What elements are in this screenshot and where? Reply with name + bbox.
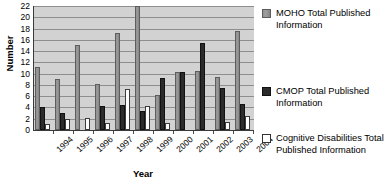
bar-group (154, 6, 174, 130)
y-tick-label: 20 (14, 13, 30, 22)
y-tick-label: 6 (14, 92, 30, 101)
bar-cog-1995[interactable] (65, 119, 70, 130)
bar-group (214, 6, 234, 130)
bar-group (234, 6, 254, 130)
bar-cmop-1994[interactable] (40, 107, 45, 130)
bar-group (134, 6, 154, 130)
x-tick-label: 2003 (235, 135, 255, 154)
bar-cog-2000[interactable] (165, 123, 170, 130)
x-tick-mark (173, 131, 174, 134)
bar-moho-1994[interactable] (35, 67, 40, 130)
bar-cog-2004[interactable] (245, 116, 250, 130)
bar-moho-1997[interactable] (95, 84, 100, 130)
legend-label: CMOP Total Published Information (276, 86, 388, 109)
x-tick-label: 1994 (55, 135, 75, 154)
y-tick-label: 16 (14, 35, 30, 44)
x-tick-label: 1997 (115, 135, 135, 154)
bar-cog-1997[interactable] (105, 123, 110, 130)
bar-chart-figure: Number 0246810121416182022 1994199519961… (0, 0, 389, 192)
bar-cmop-2003[interactable] (220, 88, 225, 130)
bar-moho-1999[interactable] (135, 6, 140, 130)
bar-moho-1998[interactable] (115, 33, 120, 130)
bar-moho-1996[interactable] (75, 45, 80, 130)
bar-cmop-2002[interactable] (200, 43, 205, 130)
legend-entry-moho[interactable]: MOHO Total Published Information (262, 8, 388, 31)
bar-cog-1996[interactable] (85, 118, 90, 130)
y-tick-label: 12 (14, 58, 30, 67)
legend-swatch-moho-icon (262, 9, 271, 18)
legend-label: MOHO Total Published Information (276, 8, 388, 31)
x-tick-mark (113, 131, 114, 134)
y-tick-label: 14 (14, 47, 30, 56)
y-tick-label: 22 (14, 2, 30, 11)
bar-cog-2003[interactable] (225, 122, 230, 130)
bar-group (114, 6, 134, 130)
bar-cog-1998[interactable] (125, 89, 130, 130)
bar-cmop-2000[interactable] (160, 78, 165, 130)
bar-group (34, 6, 54, 130)
bar-cmop-1997[interactable] (100, 106, 105, 130)
y-axis-tick-labels: 0246810121416182022 (14, 0, 30, 140)
bar-group (94, 6, 114, 130)
bar-group (174, 6, 194, 130)
bar-group (54, 6, 74, 130)
bar-cmop-2004[interactable] (240, 104, 245, 130)
bar-moho-2003[interactable] (215, 77, 220, 130)
y-tick-label: 18 (14, 24, 30, 33)
bar-cmop-1999[interactable] (140, 111, 145, 130)
y-tick-label: 8 (14, 80, 30, 89)
bar-group (74, 6, 94, 130)
bar-moho-2004[interactable] (235, 31, 240, 130)
bar-cmop-2001[interactable] (180, 72, 185, 130)
y-tick-label: 4 (14, 103, 30, 112)
x-tick-mark (233, 131, 234, 134)
x-axis-tick-labels: 1994199519961997199819992000200120022003… (33, 131, 255, 163)
legend-swatch-cog-icon (262, 134, 271, 143)
x-tick-label: 1998 (135, 135, 155, 154)
x-tick-label: 1999 (155, 135, 175, 154)
bar-cmop-1998[interactable] (120, 105, 125, 130)
x-tick-mark (153, 131, 154, 134)
x-tick-mark (53, 131, 54, 134)
legend-entry-cog[interactable]: Cognitive Disabilities Total Published I… (262, 133, 388, 156)
x-tick-mark (253, 131, 254, 134)
bar-moho-2002[interactable] (195, 71, 200, 130)
x-tick-mark (213, 131, 214, 134)
bar-cog-1999[interactable] (145, 106, 150, 130)
y-tick-label: 0 (14, 126, 30, 135)
x-tick-label: 2001 (195, 135, 215, 154)
legend-entry-cmop[interactable]: CMOP Total Published Information (262, 86, 388, 109)
bar-moho-2000[interactable] (155, 95, 160, 131)
x-tick-mark (93, 131, 94, 134)
x-tick-label: 2000 (175, 135, 195, 154)
x-tick-mark (193, 131, 194, 134)
x-tick-mark (133, 131, 134, 134)
plot-area (33, 6, 254, 131)
x-tick-label: 2002 (215, 135, 235, 154)
x-tick-mark (73, 131, 74, 134)
bar-cmop-1995[interactable] (60, 113, 65, 130)
bar-moho-1995[interactable] (55, 79, 60, 130)
y-axis-title: Number (4, 24, 15, 84)
bar-moho-2001[interactable] (175, 72, 180, 130)
legend-swatch-cmop-icon (262, 87, 271, 96)
bar-series-container (34, 6, 254, 130)
x-tick-label: 1996 (95, 135, 115, 154)
bar-cog-1994[interactable] (45, 124, 50, 130)
legend-label: Cognitive Disabilities Total Published I… (276, 133, 388, 156)
x-tick-label: 1995 (75, 135, 95, 154)
y-tick-label: 2 (14, 114, 30, 123)
x-axis-title: Year (33, 168, 253, 179)
bar-group (194, 6, 214, 130)
y-tick-label: 10 (14, 69, 30, 78)
